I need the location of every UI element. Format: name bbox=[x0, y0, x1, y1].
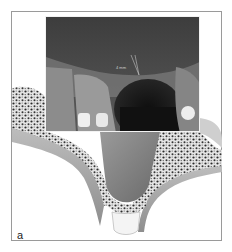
restoration-1 bbox=[78, 113, 90, 127]
measurement-label: 4 mm bbox=[116, 65, 126, 70]
panel-label: a bbox=[17, 229, 23, 241]
radiograph-inset: 4 mm bbox=[45, 16, 200, 132]
restoration-2 bbox=[96, 113, 108, 127]
restoration-3 bbox=[181, 106, 195, 120]
radiograph-image bbox=[46, 17, 200, 132]
tooth-crown bbox=[112, 212, 140, 235]
